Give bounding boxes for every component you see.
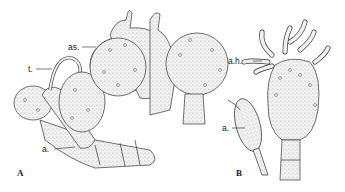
illustration: as. t. a. A — [0, 0, 345, 192]
panel-b-drawing: a.h. a. B — [222, 22, 328, 180]
panel-label-a: A — [17, 168, 24, 178]
label-ah: a.h. — [228, 56, 242, 66]
right-stalk-base — [183, 94, 205, 124]
label-as: as. — [68, 42, 79, 52]
panel-a-drawing: as. t. a. A — [14, 10, 228, 178]
base-tissue — [40, 120, 155, 168]
panel-label-b: B — [236, 168, 242, 178]
sporangium-right — [166, 33, 228, 95]
sporangium-as-front — [90, 38, 146, 96]
sporangium-b-stalk — [253, 148, 268, 175]
main-cell-b — [268, 59, 319, 140]
label-t: t. — [28, 64, 33, 74]
label-a-panel-b: a. — [222, 123, 229, 133]
label-a-panel-a: a. — [42, 144, 49, 154]
